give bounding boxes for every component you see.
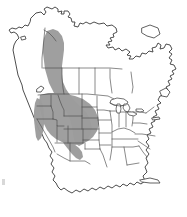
long-island [152,117,160,120]
baffin-island [142,25,160,38]
range-map-figure: North America distribution map [0,0,187,217]
kodiak-island [21,36,26,40]
north-america-map: North America distribution map [0,0,187,217]
scan-artifact-speck [2,179,5,185]
lake-ontario [136,109,144,112]
